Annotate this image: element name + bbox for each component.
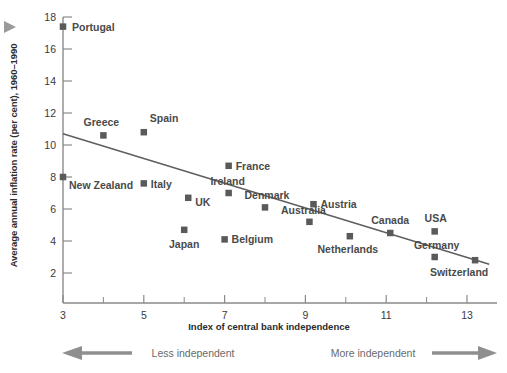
x-tick-label: 5 — [141, 309, 147, 321]
x-axis-title: Index of central bank independence — [188, 321, 350, 332]
data-point-label: Greece — [84, 116, 120, 128]
data-point-marker — [141, 180, 148, 187]
data-point-label: Canada — [371, 214, 409, 226]
less-independent-caption: Less independent — [152, 347, 235, 359]
data-point-marker — [225, 190, 232, 197]
scatter-plot-svg: 2468101214161835791113 PortugalGreeceSpa… — [0, 0, 507, 373]
data-point-label: Ireland — [210, 175, 244, 187]
data-point-marker — [141, 129, 148, 136]
data-point-label: Spain — [150, 112, 179, 124]
y-tick-label: 16 — [44, 43, 56, 55]
data-point-marker — [306, 219, 313, 226]
data-point-label: Austria — [320, 198, 356, 210]
y-tick-label: 4 — [50, 235, 56, 247]
chart-container: Average annual inflation rate (per cent)… — [0, 0, 507, 373]
data-point-label: Italy — [151, 178, 172, 190]
data-point-label: Germany — [414, 239, 460, 251]
data-point-marker — [431, 228, 438, 235]
data-point-marker — [185, 195, 192, 202]
data-point-marker — [472, 257, 479, 264]
data-point-label: Japan — [169, 238, 199, 250]
x-tick-label: 9 — [302, 309, 308, 321]
y-tick-label: 2 — [50, 267, 56, 279]
data-point-label: Portugal — [72, 21, 115, 33]
x-tick-label: 7 — [222, 309, 228, 321]
data-point-label: Australia — [281, 204, 326, 216]
y-tick-label: 12 — [44, 107, 56, 119]
data-point-label: New Zealand — [69, 179, 133, 191]
y-tick-label: 18 — [44, 11, 56, 23]
x-tick-label: 13 — [461, 309, 473, 321]
data-point-label: France — [236, 160, 271, 172]
corner-triangle-marker — [4, 21, 16, 33]
data-points — [60, 23, 479, 263]
data-point-marker — [60, 174, 67, 181]
data-point-label: USA — [425, 212, 448, 224]
more-independent-caption: More independent — [331, 347, 416, 359]
data-point-marker — [181, 227, 188, 234]
less-independent-arrow-head — [62, 346, 82, 360]
data-point-marker — [431, 254, 438, 261]
data-point-marker — [347, 233, 354, 240]
data-point-label: Denmark — [245, 189, 290, 201]
x-tick-label: 3 — [60, 309, 66, 321]
independence-arrows — [62, 346, 497, 360]
data-point-marker — [100, 132, 107, 139]
y-tick-label: 8 — [50, 171, 56, 183]
data-point-label: Belgium — [232, 233, 273, 245]
data-point-marker — [387, 230, 394, 237]
y-tick-label: 14 — [44, 75, 56, 87]
y-tick-label: 10 — [44, 139, 56, 151]
data-point-labels: PortugalGreeceSpainNew ZealandItalyUKJap… — [69, 21, 488, 279]
data-point-marker — [221, 236, 228, 243]
data-point-label: Switzerland — [430, 266, 488, 278]
data-point-label: Netherlands — [317, 243, 378, 255]
x-tick-label: 11 — [381, 309, 392, 321]
y-tick-label: 6 — [50, 203, 56, 215]
data-point-label: UK — [195, 196, 211, 208]
data-point-marker — [60, 23, 67, 30]
data-point-marker — [262, 204, 269, 211]
data-point-marker — [225, 163, 232, 170]
more-independent-arrow-head — [478, 346, 497, 360]
